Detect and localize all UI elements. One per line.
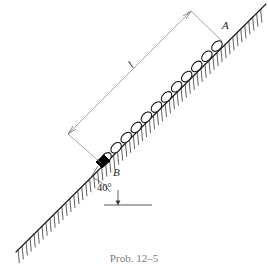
figure-container: l A B 40° Prob. 12–5	[0, 0, 268, 264]
point-b-label: B	[113, 167, 120, 178]
hatch-marks	[18, 9, 262, 263]
point-a-label: A	[222, 20, 229, 31]
angle-label: 40°	[97, 183, 112, 194]
chain-of-links	[99, 39, 224, 165]
figure-caption: Prob. 12–5	[0, 252, 268, 264]
length-dimension-line	[68, 11, 222, 163]
mechanics-diagram	[0, 0, 268, 264]
